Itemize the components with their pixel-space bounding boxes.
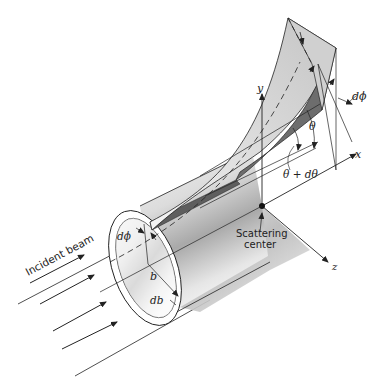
z-axis-label: z [331, 261, 338, 272]
diagram-canvas: Incident beam Scattering center y x z θ … [0, 0, 379, 388]
beam-arrow-3 [53, 302, 106, 331]
scattering-center-label-2: center [244, 239, 277, 250]
scattering-center-label-1: Scattering [236, 228, 288, 239]
beam-arrow-2 [40, 275, 94, 304]
theta-dtheta-leader [288, 146, 294, 170]
dphi-top-label: dϕ [352, 90, 367, 103]
theta-dtheta-label: θ + dθ [283, 168, 319, 180]
scattering-diagram: Incident beam Scattering center y x z θ … [0, 0, 379, 388]
b-label: b [150, 270, 157, 283]
dphi-ring-label: dϕ [117, 230, 131, 242]
y-axis-label: y [256, 82, 264, 95]
db-label: db [150, 294, 164, 306]
beam-arrow-4 [62, 322, 117, 349]
theta-label: θ [309, 120, 316, 133]
x-axis-label: x [355, 148, 362, 161]
incident-beam-label: Incident beam [23, 232, 95, 278]
horn-arrow-3 [330, 79, 334, 85]
